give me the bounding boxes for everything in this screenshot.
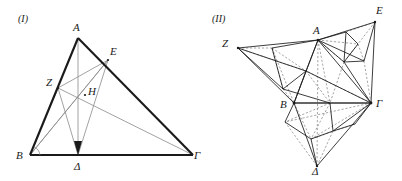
geometry-figure-canvas: [0, 0, 402, 181]
edge2-B-Z: [238, 48, 294, 103]
panel-two-label-Z: Z: [222, 38, 228, 49]
edge2-B-D: [294, 103, 317, 166]
panel-one-label-E: E: [110, 46, 117, 57]
segment-Z-D: [58, 88, 78, 155]
dash-m7-m8: [285, 103, 330, 122]
altitude-arrowhead: [74, 141, 82, 155]
panel-one-tag: (I): [18, 14, 28, 24]
edge2-A-m4: [306, 40, 318, 71]
edge2-m9-m10: [333, 124, 355, 131]
panel-one-label-Z: Z: [46, 77, 52, 88]
edge2-Z-m6: [238, 48, 283, 89]
dash-G-m11: [311, 103, 371, 139]
panel-two-dashed-lines: [238, 22, 375, 166]
dash-m4-m7: [306, 71, 330, 103]
vertex2-dot-G: [370, 102, 373, 105]
vertex-dot-E: [107, 59, 109, 61]
panel-two-vertex-dots: [237, 21, 376, 167]
edge2-m2-A: [318, 32, 346, 40]
edge2-A-m5s: [318, 40, 344, 62]
vertex2-dot-A: [317, 39, 319, 41]
angle-mark-B: [34, 147, 40, 155]
edge2-m2-m5: [344, 32, 346, 62]
panel-two-label-B: B: [280, 99, 287, 110]
dash-m12-G: [364, 61, 371, 103]
edge2-m9-G: [333, 103, 371, 131]
panel-one-label-D: Δ: [74, 161, 80, 172]
segment-B-E-dup: [30, 60, 108, 155]
panel-two-label-D: Δ: [312, 166, 318, 177]
edge2-m8-m11: [285, 122, 311, 139]
panel-two-label-E: E: [376, 5, 383, 16]
edge2-m2-m3: [346, 32, 358, 44]
edge-A-B: [30, 38, 78, 155]
vertex2-dot-Z: [237, 47, 239, 49]
panel-two-label-A: A: [313, 25, 320, 36]
dash-A-m7: [318, 40, 330, 103]
vertex-dot-Z: [57, 87, 59, 89]
panel-one-label-B: B: [16, 150, 23, 161]
edge2-m4-G: [306, 71, 371, 103]
panel-one-label-A: A: [73, 22, 80, 33]
panel-two-tag: (II): [212, 14, 225, 24]
vertex2-dot-E: [374, 21, 376, 23]
edge2-m5-m12: [344, 61, 364, 62]
panel-two-label-G: Γ: [376, 98, 382, 109]
panel-one-label-G: Γ: [194, 150, 200, 161]
edge2-D-G: [317, 103, 371, 166]
dash-m1-B: [272, 48, 294, 103]
edge2-m6-m7: [283, 89, 330, 103]
edge2-m5-G: [344, 62, 371, 103]
panel-one-label-H: H: [88, 86, 96, 97]
figure-page: (I) A E Z H B Δ Γ (II) Z A E B Γ Δ: [0, 0, 402, 181]
edge2-Z-m4: [238, 48, 306, 71]
vertex-dot-H: [84, 94, 86, 96]
vertex2-dot-B: [293, 102, 296, 105]
dash-A-m3: [318, 40, 358, 44]
panel-two-group: [237, 21, 376, 167]
